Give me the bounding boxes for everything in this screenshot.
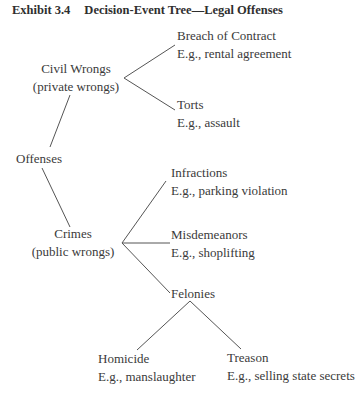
node-crimes: Crimes (public wrongs) <box>25 225 121 261</box>
node-torts: Torts E.g., assault <box>177 96 240 132</box>
crimes-label: Crimes <box>25 225 121 243</box>
breach-example: E.g., rental agreement <box>177 45 291 63</box>
misdemeanors-label: Misdemeanors <box>171 226 255 244</box>
node-breach-of-contract: Breach of Contract E.g., rental agreemen… <box>177 27 291 63</box>
homicide-example: E.g., manslaughter <box>98 368 195 386</box>
node-felonies: Felonies <box>171 285 215 303</box>
misdemeanors-example: E.g., shoplifting <box>171 244 255 262</box>
civil-label: Civil Wrongs <box>28 60 124 78</box>
breach-label: Breach of Contract <box>177 27 291 45</box>
infractions-label: Infractions <box>171 164 288 182</box>
node-infractions: Infractions E.g., parking violation <box>171 164 288 200</box>
infractions-example: E.g., parking violation <box>171 182 288 200</box>
node-homicide: Homicide E.g., manslaughter <box>98 350 195 386</box>
crimes-sub: (public wrongs) <box>25 243 121 261</box>
node-treason: Treason E.g., selling state secrets <box>227 349 355 385</box>
torts-example: E.g., assault <box>177 114 240 132</box>
root-label: Offenses <box>16 150 62 168</box>
treason-label: Treason <box>227 349 355 367</box>
civil-sub: (private wrongs) <box>28 78 124 96</box>
node-offenses: Offenses <box>16 150 62 168</box>
felonies-label: Felonies <box>171 285 215 303</box>
treason-example: E.g., selling state secrets <box>227 367 355 385</box>
homicide-label: Homicide <box>98 350 195 368</box>
torts-label: Torts <box>177 96 240 114</box>
node-misdemeanors: Misdemeanors E.g., shoplifting <box>171 226 255 262</box>
node-civil-wrongs: Civil Wrongs (private wrongs) <box>28 60 124 96</box>
